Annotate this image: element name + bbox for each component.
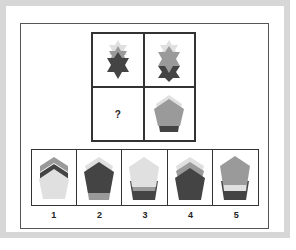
option-label-4: 4 [168, 210, 214, 220]
option-label-2: 2 [77, 210, 123, 220]
grid-cell-bottom-left: ? [92, 87, 144, 141]
option-3-shape-icon [126, 153, 162, 203]
option-1[interactable] [32, 150, 77, 205]
option-2-shape-icon [81, 153, 117, 203]
option-3[interactable] [122, 150, 167, 205]
grid-cell-top-right [144, 33, 196, 87]
stacked-pentagons-icon [151, 92, 187, 136]
option-labels: 1 2 3 4 5 [31, 210, 259, 220]
stacked-stars-icon [154, 38, 184, 82]
question-mark: ? [115, 109, 121, 120]
option-label-1: 1 [31, 210, 77, 220]
stacked-stars-icon [103, 38, 133, 82]
puzzle-box: ? [20, 23, 269, 229]
grid-cell-bottom-right [144, 87, 196, 141]
option-5[interactable] [213, 150, 258, 205]
option-4-shape-icon [172, 153, 208, 203]
question-grid: ? [91, 32, 196, 142]
option-2[interactable] [77, 150, 122, 205]
grid-cell-top-left [92, 33, 144, 87]
option-1-shape-icon [36, 153, 72, 203]
option-4[interactable] [168, 150, 213, 205]
option-5-shape-icon [217, 153, 253, 203]
option-label-5: 5 [213, 210, 259, 220]
answer-options [31, 149, 259, 206]
option-label-3: 3 [122, 210, 168, 220]
